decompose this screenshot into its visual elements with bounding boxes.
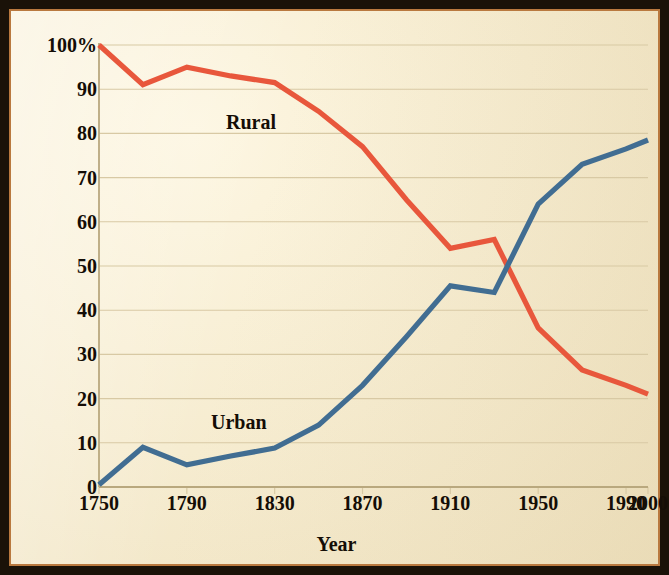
y-tick-label-50: 50 [77,256,97,276]
x-axis-tick-labels: 17501790183018701910195019902000 [11,493,662,533]
y-tick-label-60: 60 [77,212,97,232]
data-series-lines [99,45,648,485]
x-tick-label-1790: 1790 [167,493,207,513]
x-tick-label-1870: 1870 [343,493,383,513]
x-tick-label-1910: 1910 [430,493,470,513]
figure-inner-border: 100%9080706050403020100 1750179018301870… [9,9,660,566]
y-tick-label-20: 20 [77,389,97,409]
y-tick-label-90: 90 [77,79,97,99]
y-tick-label-40: 40 [77,300,97,320]
series-label-urban: Urban [211,412,267,432]
x-tick-label-1950: 1950 [518,493,558,513]
y-tick-label-10: 10 [77,433,97,453]
y-axis-tick-labels: 100%9080706050403020100 [11,11,97,568]
y-tick-label-80: 80 [77,123,97,143]
x-tick-label-1830: 1830 [255,493,295,513]
x-axis-title: Year [11,533,662,556]
gridlines [99,45,648,487]
y-tick-label-100%: 100% [47,35,97,55]
y-tick-label-30: 30 [77,344,97,364]
y-tick-label-70: 70 [77,168,97,188]
axis-lines [99,43,648,487]
figure-frame: 100%9080706050403020100 1750179018301870… [0,0,669,575]
x-tick-label-2000: 2000 [628,493,668,513]
line-chart-canvas [11,11,662,568]
series-line-urban [99,140,648,485]
x-tick-label-1750: 1750 [79,493,119,513]
series-line-rural [99,45,648,394]
plot-area: 100%9080706050403020100 1750179018301870… [11,11,658,564]
series-label-rural: Rural [226,112,276,132]
